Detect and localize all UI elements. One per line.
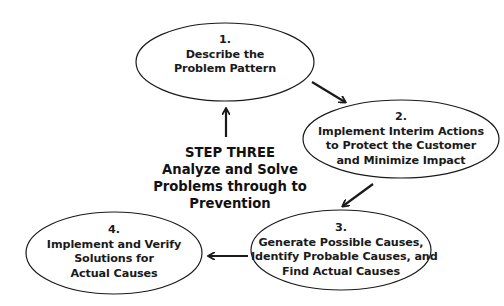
node-1-number: 1. xyxy=(145,33,305,48)
center-line-2: Problems through to xyxy=(150,178,310,195)
center-line-1: Analyze and Solve xyxy=(150,161,310,178)
node-3-line-3: Find Actual Causes xyxy=(251,265,431,280)
node-2-line-1: Implement Interim Actions xyxy=(311,125,491,140)
node-4-line-1: Implement and Verify xyxy=(34,238,194,253)
node-4-line-2: Solutions for xyxy=(34,252,194,267)
node-4-line-3: Actual Causes xyxy=(34,267,194,282)
center-title: STEP THREE xyxy=(150,144,310,161)
node-3-label: 3. Generate Possible Causes, Identify Pr… xyxy=(251,221,431,279)
node-1-line-2: Problem Pattern xyxy=(145,62,305,77)
arrow-1-to-2 xyxy=(312,82,345,102)
center-step-label: STEP THREE Analyze and Solve Problems th… xyxy=(150,144,310,212)
node-4-label: 4. Implement and Verify Solutions for Ac… xyxy=(34,223,194,281)
arrow-2-to-3 xyxy=(343,184,373,206)
node-1-label: 1. Describe the Problem Pattern xyxy=(145,33,305,77)
node-4-number: 4. xyxy=(34,223,194,238)
node-3-number: 3. xyxy=(251,221,431,236)
node-2-line-2: to Protect the Customer xyxy=(311,139,491,154)
node-2-label: 2. Implement Interim Actions to Protect … xyxy=(311,110,491,168)
node-2-line-3: and Minimize Impact xyxy=(311,154,491,169)
node-3-line-1: Generate Possible Causes, xyxy=(251,236,431,251)
node-1-line-1: Describe the xyxy=(145,48,305,63)
node-3-line-2: Identify Probable Causes, and xyxy=(251,250,431,265)
center-line-3: Prevention xyxy=(150,195,310,212)
node-2-number: 2. xyxy=(311,110,491,125)
